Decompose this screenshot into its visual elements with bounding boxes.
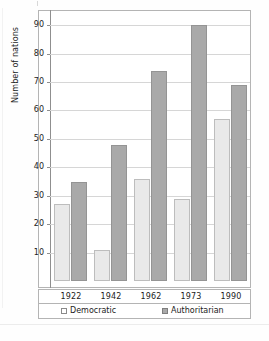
x-tick-label-1973: 1973 [171,292,211,301]
legend-swatch-authoritarian-icon [162,308,168,314]
y-tick-label: 80 [22,49,44,58]
y-tick-label: 40 [22,162,44,171]
y-tick-mark [47,54,50,55]
bar-democratic-1962 [134,179,150,281]
bar-authoritarian-1990 [231,85,247,281]
x-tick-label-1922: 1922 [51,292,91,301]
y-tick-mark [47,253,50,254]
bar-democratic-1922 [54,204,70,281]
legend-item-democratic: Democratic [61,306,116,315]
legend-label-authoritarian: Authoritarian [171,306,224,315]
legend-swatch-democratic-icon [61,308,67,314]
bar-chart-figure: Number of nations 102030405060708090 192… [15,8,255,316]
legend-item-authoritarian: Authoritarian [162,306,224,315]
y-tick-label: 70 [22,77,44,86]
legend-label-democratic: Democratic [70,306,116,315]
x-tick-label-1990: 1990 [211,292,251,301]
scan-artifact-rule [0,324,269,325]
y-tick-label: 60 [22,105,44,114]
y-tick-mark [47,110,50,111]
bar-authoritarian-1942 [111,145,127,281]
scan-artifact-mark [37,1,38,6]
y-tick-mark [47,25,50,26]
y-tick-label: 90 [22,20,44,29]
bar-democratic-1973 [174,199,190,281]
plot-area [50,11,250,281]
y-tick-label: 50 [22,134,44,143]
bar-authoritarian-1962 [151,71,167,281]
chart-legend: Democratic Authoritarian [38,304,251,319]
y-axis-title: Number of nations [11,0,20,103]
bar-authoritarian-1922 [71,182,87,281]
y-tick-label: 30 [22,191,44,200]
x-tick-label-1962: 1962 [131,292,171,301]
x-axis-label-row: 19221942196219731990 [38,289,251,304]
y-tick-mark [47,167,50,168]
gridline [50,25,250,26]
gridline [50,54,250,55]
y-tick-label: 10 [22,248,44,257]
x-tick-label-1942: 1942 [91,292,131,301]
y-tick-mark [47,224,50,225]
bar-democratic-1990 [214,119,230,281]
scan-artifact-left-edge [2,8,3,308]
y-tick-mark [47,82,50,83]
bar-authoritarian-1973 [191,25,207,281]
chart-page: Number of nations 102030405060708090 192… [0,0,269,341]
y-tick-mark [47,196,50,197]
y-tick-label: 20 [22,219,44,228]
bar-democratic-1942 [94,250,110,281]
y-tick-mark [47,139,50,140]
